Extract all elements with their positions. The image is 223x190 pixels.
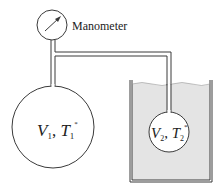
vessel-1: V1, T1* bbox=[12, 84, 94, 168]
manometer-label: Manometer bbox=[72, 19, 127, 33]
gas-thermometer-diagram: Manometer V1, T1* V2, T2* bbox=[0, 0, 223, 190]
manometer bbox=[37, 10, 67, 40]
